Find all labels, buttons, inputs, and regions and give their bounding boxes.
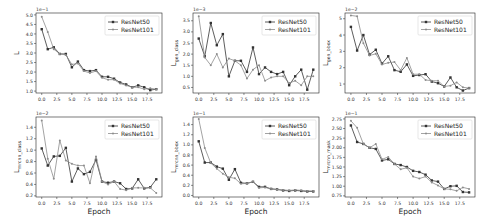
data-point <box>456 81 458 83</box>
x-tick-label: 17.5 <box>455 201 465 206</box>
data-point <box>59 53 61 55</box>
data-point <box>258 187 260 189</box>
data-point <box>234 177 236 179</box>
data-point <box>387 55 389 57</box>
y-tick-label: 1.0 <box>26 148 33 153</box>
data-point <box>137 187 139 189</box>
x-tick-label: 12.5 <box>269 97 279 102</box>
data-point <box>400 168 402 170</box>
data-point <box>264 186 266 188</box>
data-point <box>137 178 139 180</box>
data-point <box>468 191 470 193</box>
data-point <box>216 53 218 55</box>
data-point <box>375 49 377 51</box>
subplot-1: 0.02.55.07.510.012.515.017.51.01.52.02.5… <box>13 7 162 102</box>
x-tick-label: 7.5 <box>240 201 247 206</box>
y-tick-label: 1.2 <box>26 136 33 141</box>
data-point <box>387 156 389 158</box>
x-tick-label: 12.5 <box>112 97 122 102</box>
legend-label: ResNet50 <box>121 122 150 129</box>
legend-label: ResNet50 <box>278 122 307 129</box>
data-point <box>270 71 272 73</box>
data-point <box>362 143 364 145</box>
data-point <box>77 165 79 167</box>
data-point <box>131 86 133 88</box>
data-point <box>95 70 97 72</box>
data-point <box>443 85 445 87</box>
subplot-4: 0.02.55.07.510.012.515.017.50.20.40.60.8… <box>13 111 162 216</box>
x-tick-label: 7.5 <box>83 201 90 206</box>
data-point <box>222 167 224 169</box>
data-point <box>431 181 433 183</box>
data-point <box>418 171 420 173</box>
data-point <box>89 70 91 72</box>
data-point <box>288 82 290 84</box>
y-tick-label: 4.0 <box>26 32 33 37</box>
data-point <box>47 158 49 160</box>
x-tick-label: 17.5 <box>455 97 465 102</box>
y-tick-label: 2.25 <box>332 136 342 141</box>
data-point <box>350 14 352 16</box>
data-point <box>252 46 254 48</box>
x-tick-label: 5.0 <box>378 201 385 206</box>
circle-marker-icon <box>112 29 114 31</box>
y-tick-label: 1.25 <box>332 174 342 179</box>
data-point <box>406 57 408 59</box>
data-point <box>107 76 109 78</box>
x-tick-label: 7.5 <box>394 97 401 102</box>
data-point <box>455 86 457 88</box>
y-tick-label: 3.0 <box>26 51 33 56</box>
x-tick-label: 15.0 <box>284 97 294 102</box>
y-tick-label: 3 <box>339 49 342 54</box>
data-point <box>288 189 290 191</box>
data-point <box>234 60 236 62</box>
data-point <box>53 155 55 157</box>
data-point <box>65 54 67 56</box>
data-point <box>449 85 451 87</box>
y-tick-label: 3.5 <box>183 18 190 23</box>
x-tick-label: 12.5 <box>269 201 279 206</box>
data-point <box>306 190 308 192</box>
data-point <box>312 190 314 192</box>
circle-marker-icon <box>269 29 271 31</box>
axis-scale-label: 1e−1 <box>193 111 206 116</box>
data-point <box>246 71 248 73</box>
data-point <box>418 73 420 75</box>
y-tick-label: 0.8 <box>183 153 190 158</box>
y-axis-label: Lgen_class <box>170 39 180 66</box>
data-point <box>294 189 296 191</box>
data-point <box>119 82 121 84</box>
data-point <box>387 62 389 64</box>
data-point <box>312 68 314 70</box>
data-point <box>204 56 206 58</box>
data-point <box>381 158 383 160</box>
data-point <box>294 80 296 82</box>
data-point <box>143 187 145 189</box>
data-point <box>375 53 377 55</box>
x-axis-label: Epoch <box>399 207 422 216</box>
data-point <box>210 64 212 66</box>
data-point <box>71 63 73 65</box>
data-point <box>41 147 43 149</box>
y-tick-label: 5.0 <box>26 13 33 18</box>
data-point <box>137 84 139 86</box>
data-point <box>77 62 79 64</box>
legend-label: ResNet101 <box>121 26 154 33</box>
data-point <box>264 80 266 82</box>
legend: ResNet50ResNet101 <box>262 120 316 139</box>
y-tick-label: 0.4 <box>183 173 190 178</box>
data-point <box>113 181 115 183</box>
data-point <box>462 86 464 88</box>
data-point <box>53 48 55 50</box>
data-point <box>210 162 212 164</box>
data-point <box>71 163 73 165</box>
data-point <box>143 88 145 90</box>
data-point <box>149 87 151 89</box>
legend-label: ResNet50 <box>121 18 150 25</box>
data-point <box>431 80 433 82</box>
data-point <box>449 76 451 78</box>
data-point <box>456 190 458 192</box>
data-point <box>356 127 358 129</box>
data-point <box>246 182 248 184</box>
data-point <box>381 63 383 65</box>
